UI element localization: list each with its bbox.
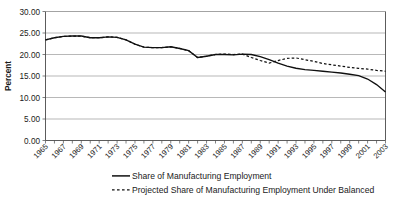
x-tick-label: 2003 [372, 142, 390, 160]
x-tick-label: 1999 [336, 142, 354, 160]
x-tick-label: 1995 [300, 142, 318, 160]
y-axis-title: Percent [4, 61, 13, 91]
x-tick-label: 1997 [318, 142, 336, 160]
chart-canvas: 0.005.0010.0015.0020.0025.0030.00 196519… [0, 0, 395, 204]
x-tick-label: 1981 [175, 142, 193, 160]
chart-legend: Share of Manufacturing EmploymentProject… [112, 171, 374, 195]
y-tick-label: 5.00 [24, 115, 40, 124]
x-tick-label: 1973 [103, 142, 121, 160]
x-tick-label: 1977 [139, 142, 157, 160]
y-axis-tick-labels: 0.005.0010.0015.0020.0025.0030.00 [20, 8, 41, 146]
x-tick-label: 1985 [211, 142, 229, 160]
x-tick-label: 2001 [354, 142, 372, 160]
manufacturing-employment-chart: 0.005.0010.0015.0020.0025.0030.00 196519… [0, 0, 395, 204]
y-tick-label: 25.00 [20, 29, 41, 38]
x-tick-label: 1983 [193, 142, 211, 160]
x-tick-label: 1969 [67, 142, 85, 160]
series-line-projected-share-under-balanced [46, 36, 386, 71]
x-tick-label: 1993 [282, 142, 300, 160]
y-tick-label: 10.00 [20, 94, 41, 103]
y-tick-label: 30.00 [20, 8, 41, 17]
y-tick-label: 15.00 [20, 72, 41, 81]
legend-label-0: Share of Manufacturing Employment [132, 171, 272, 181]
x-tick-label: 1987 [228, 142, 246, 160]
x-tick-label: 1991 [264, 142, 282, 160]
y-tick-label: 20.00 [20, 51, 41, 60]
x-tick-label: 1971 [85, 142, 103, 160]
x-axis-tick-labels: 1965196719691971197319751977197919811983… [32, 142, 390, 160]
x-tick-label: 1979 [157, 142, 175, 160]
series-line-share-of-manufacturing-employment [46, 36, 386, 92]
x-tick-label: 1975 [121, 142, 139, 160]
y-tick-label: 0.00 [24, 137, 40, 146]
legend-label-1: Projected Share of Manufacturing Employm… [132, 185, 374, 195]
x-tick-label: 1967 [49, 142, 67, 160]
x-tick-label: 1989 [246, 142, 264, 160]
